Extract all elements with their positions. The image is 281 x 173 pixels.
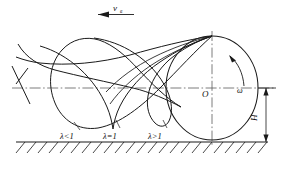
hatched-ground-icon	[16, 142, 268, 153]
height-arrowhead-bottom	[263, 135, 268, 143]
curve-common-lambda-eq-1	[40, 36, 212, 129]
label-curve-curtate: λ<1	[59, 131, 74, 141]
label-curve-prolate: λ>1	[147, 131, 162, 141]
rotation-arrow-group	[229, 55, 244, 86]
arrow-left-icon	[98, 12, 109, 18]
omega-label: ω	[237, 86, 243, 95]
ground-hatching	[16, 142, 267, 153]
curve-prolate-lambda-gt-1	[94, 36, 212, 126]
height-arrowhead-top	[263, 88, 268, 96]
trochoid-diagram: v в O ω λ<1 λ=1 λ>1 H	[0, 0, 281, 173]
velocity-label: v	[113, 3, 117, 13]
height-dimension-group	[258, 88, 276, 142]
velocity-subscript-label: в	[120, 8, 123, 14]
curve-left-cross-b	[16, 68, 28, 84]
center-label: O	[202, 89, 209, 99]
curve-curtate-tail	[18, 44, 181, 107]
height-label: H	[249, 114, 259, 122]
curve-curtate-lambda-lt-1	[51, 36, 212, 128]
label-curve-common: λ=1	[102, 131, 117, 141]
curve-left-cross-a	[12, 66, 30, 104]
curve-strand-extra-2	[106, 36, 212, 92]
